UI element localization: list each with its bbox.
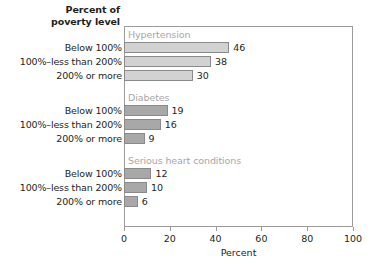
bar-value-label: 38 (215, 56, 227, 67)
category-label: Below 100% (2, 42, 122, 53)
category-label: 200% or more (2, 70, 122, 81)
group-header-2: Diabetes (128, 92, 169, 103)
x-axis-label: Percent (124, 247, 353, 258)
x-tick-label: 0 (109, 233, 139, 244)
category-label-layer: Below 100%100%–less than 200%200% or mor… (0, 0, 122, 267)
group-header-3: Serious heart conditions (128, 155, 241, 166)
x-tick-mark (261, 227, 262, 231)
bar-value-label: 12 (155, 168, 167, 179)
bar-value-label: 6 (142, 196, 148, 207)
bar-value-label: 30 (197, 70, 209, 81)
x-tick-label: 80 (292, 233, 322, 244)
bar (124, 42, 229, 53)
x-tick-mark (170, 227, 171, 231)
x-tick-label: 100 (338, 233, 368, 244)
x-tick-mark (216, 227, 217, 231)
x-tick-label: 40 (201, 233, 231, 244)
category-label: 100%–less than 200% (2, 56, 122, 67)
category-label: 200% or more (2, 196, 122, 207)
x-tick-label: 20 (155, 233, 185, 244)
x-tick-mark (307, 227, 308, 231)
category-label: Below 100% (2, 168, 122, 179)
percent-of-poverty-level-bar-chart: Percent of poverty level Hypertension463… (0, 0, 385, 267)
bar-value-label: 9 (149, 133, 155, 144)
bar (124, 119, 161, 130)
category-label: 100%–less than 200% (2, 119, 122, 130)
bar (124, 182, 147, 193)
x-tick-mark (124, 227, 125, 231)
bar-value-label: 16 (165, 119, 177, 130)
bar-value-label: 46 (233, 42, 245, 53)
bar (124, 168, 151, 179)
category-label: 100%–less than 200% (2, 182, 122, 193)
bar-value-label: 10 (151, 182, 163, 193)
bar (124, 133, 145, 144)
bar-value-label: 19 (172, 105, 184, 116)
bar (124, 105, 168, 116)
bar (124, 70, 193, 81)
group-header-1: Hypertension (128, 29, 190, 40)
x-tick-mark (353, 227, 354, 231)
x-tick-label: 60 (246, 233, 276, 244)
bar (124, 196, 138, 207)
category-label: 200% or more (2, 133, 122, 144)
category-label: Below 100% (2, 105, 122, 116)
bar (124, 56, 211, 67)
